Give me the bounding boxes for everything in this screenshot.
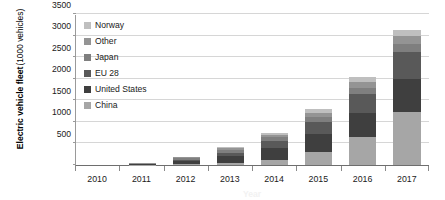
stacked-bar[interactable]	[129, 163, 156, 165]
bar-segment-china	[393, 112, 420, 165]
bar-segment-united-states	[393, 79, 420, 112]
bar-slot	[385, 15, 429, 165]
legend-item-eu-28[interactable]: EU 28	[84, 65, 147, 81]
stacked-bar[interactable]	[393, 30, 420, 165]
bar-segment-united-states	[217, 156, 244, 164]
bar-segment-japan	[393, 44, 420, 53]
bar-slot	[297, 15, 341, 165]
legend-label: Japan	[95, 52, 118, 62]
legend-item-united-states[interactable]: United States	[84, 81, 147, 97]
stacked-bar[interactable]	[305, 109, 332, 165]
legend-item-japan[interactable]: Japan	[84, 49, 147, 65]
y-tick-label: 500	[57, 129, 71, 139]
x-axis-labels: 20102011201220132014201520162017	[75, 172, 429, 186]
bar-slot	[253, 15, 297, 165]
x-axis-title: Year	[75, 188, 429, 200]
bar-segment-china	[173, 164, 200, 165]
chart-container: Electric vehicle fleet (1000 vehicles) 5…	[0, 0, 445, 200]
bar-segment-united-states	[261, 148, 288, 161]
x-tick-label: 2013	[208, 172, 252, 186]
stacked-bar[interactable]	[349, 77, 376, 165]
legend-label: Other	[95, 36, 117, 46]
y-tick-label: 3000	[52, 21, 71, 31]
stacked-bar[interactable]	[217, 147, 244, 165]
bar-segment-united-states	[305, 134, 332, 151]
legend-swatch-icon	[84, 54, 91, 61]
y-axis-title-main: Electric vehicle fleet	[15, 67, 25, 150]
chart-legend: NorwayOtherJapanEU 28United StatesChina	[84, 17, 147, 113]
gridline	[76, 13, 429, 14]
legend-swatch-icon	[84, 86, 91, 93]
y-tick-label: 3500	[52, 0, 71, 10]
y-tick-label: 1500	[52, 86, 71, 96]
legend-item-china[interactable]: China	[84, 97, 147, 113]
y-tick-label: 2000	[52, 64, 71, 74]
bar-segment-china	[217, 163, 244, 165]
x-tick-label: 2014	[252, 172, 296, 186]
legend-swatch-icon	[84, 102, 91, 109]
y-tick-label: 1000	[52, 107, 71, 117]
y-tick-mark	[73, 13, 76, 14]
legend-item-other[interactable]: Other	[84, 33, 147, 49]
bar-segment-eu-28	[305, 122, 332, 135]
bar-segment-united-states	[349, 113, 376, 137]
x-tick-label: 2016	[341, 172, 385, 186]
x-tick-label: 2017	[385, 172, 429, 186]
x-tick-label: 2010	[75, 172, 119, 186]
bar-segment-eu-28	[349, 94, 376, 113]
legend-swatch-icon	[84, 38, 91, 45]
y-tick-label: 2500	[52, 43, 71, 53]
legend-swatch-icon	[84, 70, 91, 77]
y-axis-title: Electric vehicle fleet (1000 vehicles)	[0, 0, 34, 178]
legend-item-norway[interactable]: Norway	[84, 17, 147, 33]
bar-slot	[208, 15, 252, 165]
legend-label: United States	[95, 84, 147, 94]
stacked-bar[interactable]	[173, 157, 200, 165]
legend-swatch-icon	[84, 22, 91, 29]
bar-segment-other	[393, 36, 420, 44]
stacked-bar[interactable]	[261, 133, 288, 165]
y-axis-title-units: (1000 vehicles)	[15, 9, 25, 66]
bar-slot	[341, 15, 385, 165]
legend-label: EU 28	[95, 68, 119, 78]
bar-segment-china	[261, 160, 288, 165]
bar-segment-china	[349, 137, 376, 165]
legend-label: China	[95, 100, 117, 110]
x-tick-label: 2015	[296, 172, 340, 186]
bar-segment-china	[305, 152, 332, 165]
x-tick-label: 2011	[119, 172, 163, 186]
bar-slot	[164, 15, 208, 165]
bar-segment-eu-28	[393, 52, 420, 79]
x-tick-label: 2012	[164, 172, 208, 186]
legend-label: Norway	[95, 20, 124, 30]
